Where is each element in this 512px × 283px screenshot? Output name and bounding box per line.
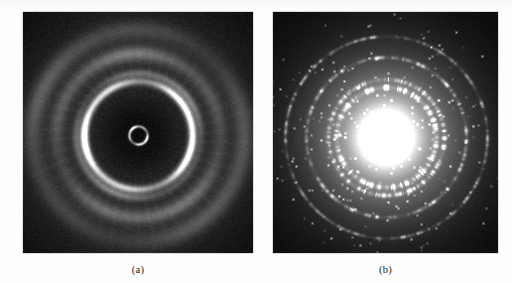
figure-page: (a) (b) — [0, 0, 512, 283]
diffraction-pattern-b-image — [273, 12, 498, 253]
diffraction-panel-b — [273, 12, 498, 253]
diffraction-panel-a — [23, 12, 253, 253]
panel-b-caption: (b) — [273, 264, 498, 275]
diffraction-pattern-a-image — [23, 12, 253, 253]
panel-a-caption: (a) — [23, 264, 253, 275]
